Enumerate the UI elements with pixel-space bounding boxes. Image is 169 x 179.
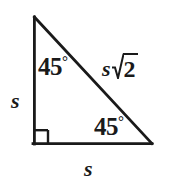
left-leg-label: s bbox=[11, 90, 20, 112]
geometry-figure: 45° s 2 s 45° s bbox=[0, 0, 169, 179]
angle-label-top-value: 45 bbox=[38, 53, 62, 80]
square-root-icon: 2 bbox=[112, 53, 138, 82]
angle-label-top: 45° bbox=[38, 54, 68, 79]
radicand-value: 2 bbox=[123, 53, 138, 82]
hypotenuse-label: s 2 bbox=[102, 53, 138, 82]
angle-label-bottom-right: 45° bbox=[94, 114, 124, 139]
bottom-leg-label: s bbox=[84, 158, 93, 179]
angle-label-bottom-right-value: 45 bbox=[94, 113, 118, 140]
degree-symbol-bottom-right: ° bbox=[118, 113, 124, 129]
hypotenuse-coefficient: s bbox=[102, 53, 111, 80]
degree-symbol-top: ° bbox=[62, 53, 68, 69]
triangle-diagram-svg bbox=[0, 0, 169, 179]
